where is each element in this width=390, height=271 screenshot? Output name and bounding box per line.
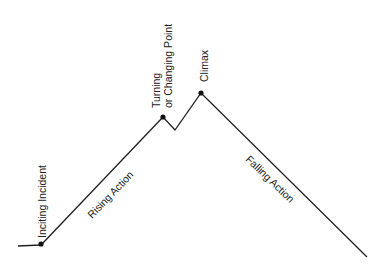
climax-label: Climax: [198, 49, 210, 82]
turning-point-label-line2: or Changing Point: [162, 24, 174, 108]
plot-line: [18, 93, 367, 257]
turning-point-dot: [160, 114, 165, 119]
plot-diagram-svg: Inciting Incident Rising Action Turning …: [0, 0, 390, 271]
climax-dot: [198, 90, 203, 95]
inciting-incident-dot: [38, 241, 43, 246]
plot-diagram: Inciting Incident Rising Action Turning …: [0, 0, 390, 271]
inciting-incident-label: Inciting Incident: [36, 165, 48, 238]
turning-point-label-line1: Turning: [150, 73, 162, 108]
rising-action-label: Rising Action: [85, 168, 136, 220]
